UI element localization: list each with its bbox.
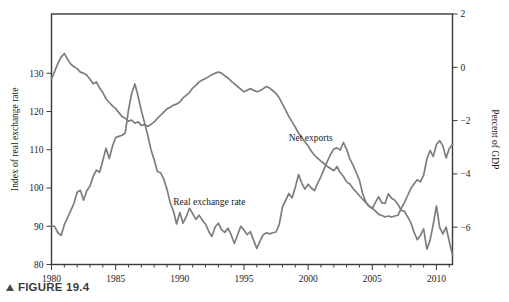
y-tick-label-left: 90	[34, 222, 44, 232]
x-tick-label: 1995	[234, 274, 253, 284]
y-tick-label-left: 120	[29, 107, 44, 117]
y-tick-label-right: 2	[461, 9, 466, 19]
series-line-net-exports	[52, 53, 453, 217]
figure-caption-text: FIGURE 19.4	[18, 281, 89, 293]
x-tick-label: 1990	[170, 274, 189, 284]
left-axis-title: Index of real exchange rate	[10, 88, 20, 191]
axis-titles-group: Index of real exchange ratePercent of GD…	[10, 88, 500, 191]
series-label-real-exchange-rate: Real exchange rate	[173, 197, 245, 207]
y-axis-left: 8090100110120130	[29, 69, 51, 270]
series-labels-group: Real exchange rateNet exports	[173, 133, 333, 208]
y-tick-label-left: 110	[30, 145, 44, 155]
x-tick-label: 2010	[427, 274, 446, 284]
series-label-net-exports: Net exports	[289, 133, 333, 143]
y-tick-label-right: 0	[461, 63, 466, 73]
triangle-marker-icon	[6, 284, 14, 291]
x-tick-label: 1985	[106, 274, 125, 284]
y-axis-right: 20−2−4−6	[453, 9, 471, 232]
figure-caption: FIGURE 19.4	[6, 281, 89, 293]
series-line-real-exchange-rate	[52, 84, 453, 255]
y-tick-label-left: 80	[34, 260, 44, 270]
x-axis: 1980198519901995200020052010	[42, 265, 449, 284]
y-tick-label-right: −6	[461, 223, 471, 233]
y-tick-label-right: −4	[461, 169, 471, 179]
figure-container: 1980198519901995200020052010 80901001101…	[0, 0, 509, 302]
x-tick-label: 2005	[363, 274, 382, 284]
plot-border	[52, 14, 453, 265]
data-series-group	[52, 53, 453, 255]
y-tick-label-right: −2	[461, 116, 471, 126]
y-tick-label-left: 130	[29, 69, 44, 79]
right-axis-title: Percent of GDP	[490, 109, 500, 169]
chart-canvas: 1980198519901995200020052010 80901001101…	[0, 0, 509, 302]
y-tick-label-left: 100	[29, 183, 44, 193]
plot-frame	[52, 14, 453, 265]
x-tick-label: 2000	[299, 274, 318, 284]
